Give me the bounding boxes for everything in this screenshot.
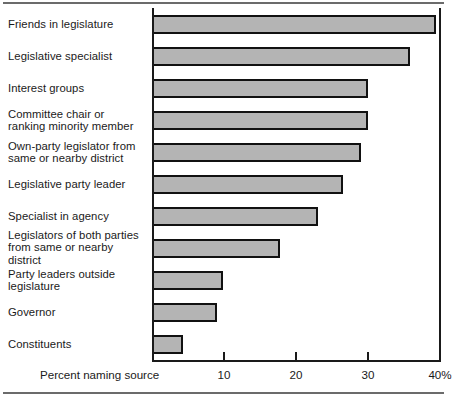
bar <box>152 207 318 226</box>
category-label: Committee chair or ranking minority memb… <box>8 108 148 133</box>
bar-track <box>152 168 440 200</box>
bar-track <box>152 264 440 296</box>
bar-row: Legislative specialist <box>0 40 447 72</box>
bar-row: Party leaders outside legislature <box>0 264 447 296</box>
bar-track <box>152 136 440 168</box>
bar-row: Interest groups <box>0 72 447 104</box>
bar-track <box>152 232 440 264</box>
bottom-rule <box>3 392 444 394</box>
category-label: Party leaders outside legislature <box>8 268 148 293</box>
category-label: Own-party legislator from same or nearby… <box>8 140 148 165</box>
x-axis-tick-label: 30 <box>362 368 375 381</box>
bar <box>152 79 368 98</box>
bar-track <box>152 40 440 72</box>
category-label: Constituents <box>8 338 148 350</box>
bar-row: Own-party legislator from same or nearby… <box>0 136 447 168</box>
bar <box>152 335 183 354</box>
bar-row: Legislative party leader <box>0 168 447 200</box>
bar-row: Legislators of both parties from same or… <box>0 232 447 264</box>
top-rule <box>3 2 444 4</box>
bar <box>152 111 368 130</box>
category-label: Legislative specialist <box>8 50 148 62</box>
x-axis-tick-label: 20 <box>290 368 303 381</box>
category-label: Legislators of both parties from same or… <box>8 229 148 266</box>
bar-track <box>152 8 440 40</box>
bar-row: Governor <box>0 296 447 328</box>
x-axis-title: Percent naming source <box>40 368 159 381</box>
bar <box>152 303 217 322</box>
x-axis-tick-label: 10 <box>218 368 231 381</box>
category-label: Specialist in agency <box>8 210 148 222</box>
x-axis-tick <box>223 352 225 362</box>
bar-track <box>152 200 440 232</box>
bar-row: Committee chair or ranking minority memb… <box>0 104 447 136</box>
bar-track <box>152 296 440 328</box>
category-label: Governor <box>8 306 148 318</box>
bar <box>152 47 410 66</box>
chart-plot-rows: Friends in legislatureLegislative specia… <box>0 8 447 360</box>
bar <box>152 175 343 194</box>
x-axis-tick <box>439 352 441 362</box>
bar <box>152 15 436 34</box>
bar-row: Friends in legislature <box>0 8 447 40</box>
category-label: Legislative party leader <box>8 178 148 190</box>
bar-track <box>152 104 440 136</box>
x-axis-tick <box>295 352 297 362</box>
category-label: Interest groups <box>8 82 148 94</box>
bar-track <box>152 72 440 104</box>
bar <box>152 239 280 258</box>
bar-row: Specialist in agency <box>0 200 447 232</box>
x-axis-tick-label: 40% <box>428 368 451 381</box>
bar <box>152 143 361 162</box>
x-axis-tick <box>367 352 369 362</box>
category-label: Friends in legislature <box>8 18 148 30</box>
bar <box>152 271 223 290</box>
